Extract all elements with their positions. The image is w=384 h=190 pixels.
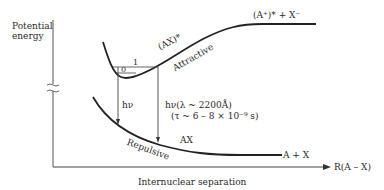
x-axis-end-label: R(A – X) — [334, 162, 371, 172]
attractive-asymptote-label: (A⁺)* + X⁻ — [253, 10, 300, 20]
y-axis-label-line2: energy — [12, 31, 44, 41]
y-axis-label-line1: Potential — [12, 21, 53, 31]
transition-right-label-line2: (τ ~ 6 – 8 × 10⁻⁹ s) — [171, 111, 259, 121]
axis-break-icon — [47, 84, 59, 92]
vibrational-level-0-label: 0 — [121, 65, 126, 75]
x-axis-label: Internuclear separation — [138, 177, 246, 187]
repulsive-asymptote-label: A + X — [283, 150, 309, 160]
energy-diagram — [0, 0, 384, 190]
vibrational-level-1-label: 1 — [133, 58, 138, 68]
transition-left-label: hν — [122, 100, 133, 110]
x-axis-arrow-icon — [323, 164, 331, 170]
arrowhead-right-icon — [156, 137, 160, 143]
repulsive-state-label: AX — [180, 135, 193, 145]
transition-right-label-line1: hν(λ ~ 2200Å) — [165, 100, 232, 110]
